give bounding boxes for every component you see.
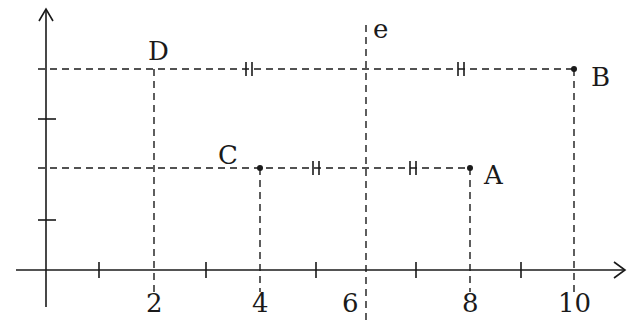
equal-segment-marks — [246, 62, 464, 175]
line-label-e: e — [373, 16, 388, 42]
x-tick-label-8: 8 — [462, 290, 479, 316]
point-label-a: A — [484, 162, 503, 188]
coordinate-diagram: A B C D e 2 4 6 8 10 — [0, 0, 631, 330]
x-tick-label-10: 10 — [558, 290, 591, 316]
point-label-b: B — [591, 64, 610, 90]
x-tick-label-2: 2 — [146, 290, 163, 316]
x-tick-label-4: 4 — [252, 290, 269, 316]
y-axis-ticks — [38, 119, 56, 220]
diagram-canvas — [0, 0, 631, 330]
point-label-d: D — [148, 38, 169, 64]
point-c — [257, 165, 263, 171]
point-b — [571, 66, 577, 72]
point-label-c: C — [218, 142, 238, 168]
point-a — [467, 165, 473, 171]
x-tick-label-6: 6 — [342, 290, 359, 316]
